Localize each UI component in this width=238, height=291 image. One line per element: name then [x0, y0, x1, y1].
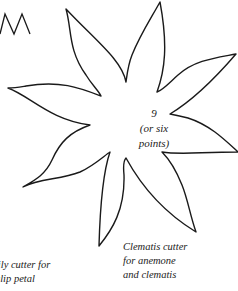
clematis-caption-line2: for anemone [123, 254, 187, 268]
point-count-number: 9 [124, 106, 184, 121]
clematis-caption-line3: and clematis [123, 268, 187, 282]
point-count-alt-cont: points) [124, 136, 184, 151]
point-count-label: 9 (or six points) [124, 106, 184, 151]
point-count-alt: (or six [124, 121, 184, 136]
lily-caption-line1: Lily cutter for [0, 258, 50, 272]
zigzag-edge-icon [0, 14, 30, 34]
lily-caption-line2: tulip petal [0, 272, 50, 286]
clematis-cutter-shape [8, 2, 238, 246]
clematis-caption-line1: Clematis cutter [123, 240, 187, 254]
lily-caption: Lily cutter for tulip petal [0, 258, 50, 286]
clematis-caption: Clematis cutter for anemone and clematis [123, 240, 187, 282]
cutter-illustration [0, 0, 238, 291]
